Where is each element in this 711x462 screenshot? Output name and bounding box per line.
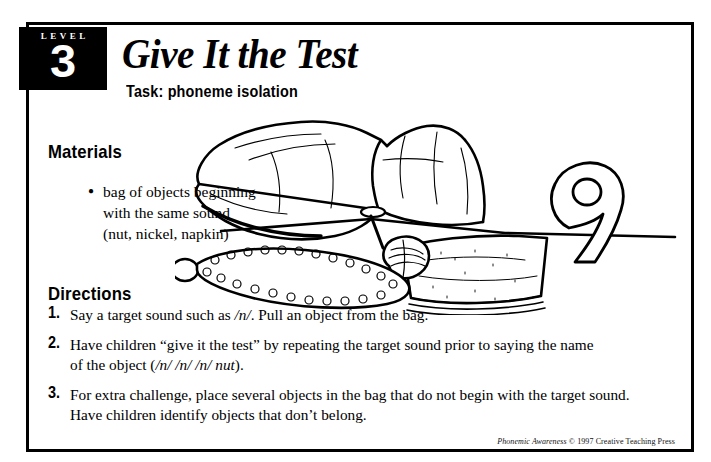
- materials-list: bag of objects beginning with the same s…: [48, 181, 303, 244]
- materials-line-1: bag of objects beginning: [103, 181, 303, 202]
- step-text: Say a target sound such as /n/. Pull an …: [70, 305, 643, 325]
- step-text-part: Say a target sound such as: [70, 306, 235, 323]
- direction-step-1: 1. Say a target sound such as /n/. Pull …: [48, 305, 643, 325]
- level-number: 3: [50, 39, 76, 82]
- materials-line-2: with the same sound: [103, 202, 303, 223]
- copyright-line: Phonemic Awareness © 1997 Creative Teach…: [497, 437, 675, 446]
- copyright-title: Phonemic Awareness: [497, 437, 567, 446]
- direction-step-3: 3. For extra challenge, place several ob…: [48, 385, 643, 425]
- materials-heading: Materials: [48, 141, 122, 163]
- step-text-line-2: of the object (/n/ /n/ /n/ nut).: [70, 355, 643, 375]
- step-text-part: of the object (: [70, 356, 155, 373]
- step-text-line-1: Have children “give it the test” by repe…: [70, 335, 643, 355]
- materials-line-3: (nut, nickel, napkin): [103, 223, 303, 244]
- directions-heading: Directions: [48, 283, 132, 305]
- step-text-part: . Pull an object from the bag.: [251, 306, 429, 323]
- worksheet-page: LEVEL 3 Give It the Test Task: phoneme i…: [0, 0, 711, 462]
- step-text-line-2: Have children identify objects that don’…: [70, 405, 643, 425]
- direction-step-2: 2. Have children “give it the test” by r…: [48, 335, 643, 375]
- step-number: 2.: [48, 333, 60, 353]
- phoneme-notation: /n/ /n/ /n/ nut: [155, 356, 234, 373]
- step-number: 3.: [48, 383, 60, 403]
- list-item: bag of objects beginning with the same s…: [88, 181, 303, 244]
- copyright-rest: © 1997 Creative Teaching Press: [567, 437, 675, 446]
- step-text-part: ).: [235, 356, 244, 373]
- step-text-line-1: For extra challenge, place several objec…: [70, 385, 643, 405]
- task-subtitle: Task: phoneme isolation: [126, 83, 298, 101]
- directions-list: 1. Say a target sound such as /n/. Pull …: [48, 305, 643, 435]
- step-number: 1.: [48, 303, 60, 323]
- phoneme-notation: /n/: [235, 306, 251, 323]
- page-title: Give It the Test: [122, 33, 357, 75]
- level-badge: LEVEL 3: [19, 27, 107, 90]
